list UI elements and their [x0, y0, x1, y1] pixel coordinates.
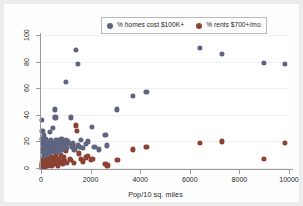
data-point [144, 144, 149, 149]
scatter-chart-figure: % homes cost $100K+ % rents $700+/mo Pop… [0, 0, 303, 206]
data-point [283, 140, 288, 145]
data-point [72, 160, 77, 165]
y-axis-tick [36, 35, 40, 36]
x-axis-tick [239, 170, 240, 174]
data-point [283, 62, 288, 67]
data-point [115, 157, 120, 162]
legend-entry-homes: % homes cost $100K+ [107, 22, 184, 29]
x-axis-tick-label: 4000 [132, 176, 148, 183]
data-point [63, 79, 68, 84]
x-axis-tick [140, 170, 141, 174]
x-axis-tick-label: 0 [39, 176, 43, 183]
data-point [89, 124, 94, 129]
y-axis-tick-label: 20 [23, 132, 33, 150]
y-axis-tick [36, 168, 40, 169]
y-axis-tick [36, 141, 40, 142]
data-point [52, 107, 57, 112]
data-point [74, 47, 79, 52]
y-axis-tick-label: 60 [23, 79, 33, 97]
data-point [262, 156, 267, 161]
x-axis-tick [190, 170, 191, 174]
data-point [219, 139, 224, 144]
x-axis-tick-label: 2000 [83, 176, 99, 183]
x-axis-line [39, 169, 293, 170]
data-point [144, 90, 149, 95]
legend-entry-rents: % rents $700+/mo [196, 22, 261, 29]
plot-area [41, 35, 289, 168]
data-point [130, 94, 135, 99]
data-point [219, 51, 224, 56]
data-point [114, 107, 119, 112]
data-point [197, 140, 202, 145]
chart-legend: % homes cost $100K+ % rents $700+/mo [101, 17, 267, 34]
x-axis-tick-label: 8000 [232, 176, 248, 183]
y-axis-tick [36, 115, 40, 116]
data-point [68, 115, 73, 120]
data-point [197, 46, 202, 51]
data-point [50, 126, 55, 131]
gridline [41, 115, 289, 116]
data-point [75, 128, 80, 133]
data-point [86, 139, 91, 144]
data-point [103, 132, 108, 137]
legend-marker-homes-icon [107, 23, 113, 29]
y-axis-tick-label: 80 [23, 53, 33, 71]
data-point [262, 60, 267, 65]
y-axis-tick [36, 88, 40, 89]
y-axis-tick-label: 100 [23, 26, 33, 44]
x-axis-tick-label: 10000 [279, 176, 298, 183]
data-point [97, 147, 102, 152]
legend-label-rents: % rents $700+/mo [206, 22, 261, 29]
data-point [90, 156, 95, 161]
x-axis-title: Pop/10 sq. miles [4, 190, 303, 199]
gridline [41, 35, 289, 36]
y-axis-line [40, 33, 41, 170]
x-axis-tick [289, 170, 290, 174]
x-axis-tick [41, 170, 42, 174]
x-axis-tick [91, 170, 92, 174]
y-axis-tick-label: 0 [23, 159, 33, 177]
data-point [104, 143, 109, 148]
y-axis-tick [36, 62, 40, 63]
x-axis-tick-label: 6000 [182, 176, 198, 183]
legend-marker-rents-icon [196, 23, 202, 29]
y-axis-tick-label: 40 [23, 106, 33, 124]
data-point [75, 62, 80, 67]
legend-label-homes: % homes cost $100K+ [117, 22, 184, 29]
figure-canvas: % homes cost $100K+ % rents $700+/mo Pop… [4, 4, 299, 202]
data-point [53, 115, 58, 120]
data-point [130, 147, 135, 152]
gridline [41, 88, 289, 89]
